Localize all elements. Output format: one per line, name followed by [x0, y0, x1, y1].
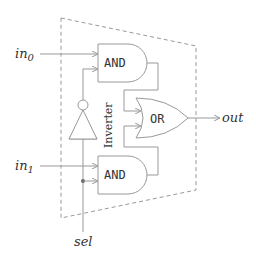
and-gate-top: AND: [98, 44, 147, 82]
mux-diagram: Inverter AND AND OR in0 in1: [0, 0, 256, 255]
and-gate-top-label: AND: [104, 56, 126, 70]
and-gate-bottom-label: AND: [104, 168, 126, 182]
in0-label: in0: [15, 46, 35, 63]
sel-label: sel: [74, 234, 93, 249]
out-label: out: [222, 110, 244, 125]
in1-label: in1: [15, 158, 34, 175]
or-gate-label: OR: [150, 112, 165, 126]
and-gate-bottom: AND: [98, 156, 147, 194]
inverter-gate: [69, 69, 97, 139]
inverter-label: Inverter: [102, 102, 115, 148]
or-gate: OR: [136, 98, 188, 138]
